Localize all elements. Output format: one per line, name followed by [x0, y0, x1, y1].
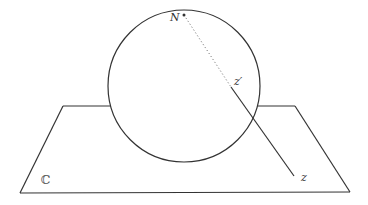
z-label: z — [300, 171, 307, 184]
projection-line-dotted — [184, 15, 231, 87]
plane-bottom-edge — [20, 192, 350, 193]
complex-plane-label: ℂ — [41, 173, 51, 187]
stereographic-projection-diagram: N z′ z ℂ — [0, 0, 368, 205]
north-pole-point — [183, 14, 186, 17]
z-prime-label: z′ — [233, 75, 243, 88]
projection-line-solid — [231, 87, 294, 176]
north-pole-label: N — [169, 11, 180, 24]
